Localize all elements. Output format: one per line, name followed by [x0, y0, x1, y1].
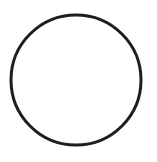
drawing-canvas	[0, 0, 157, 162]
circle-outline	[11, 15, 141, 145]
